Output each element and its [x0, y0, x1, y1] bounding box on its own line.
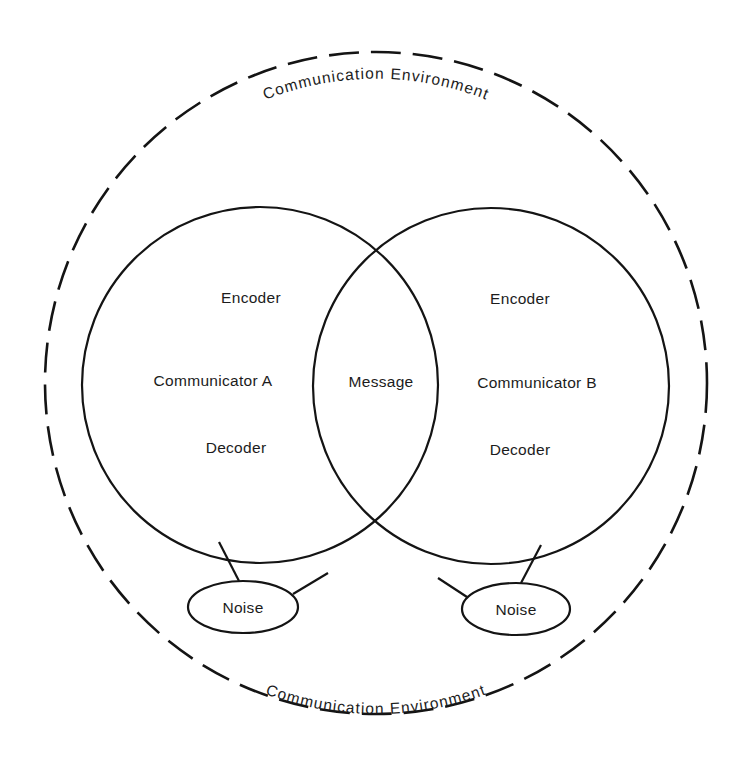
- noise-left-tail-line: [293, 573, 328, 594]
- communicator-a-encoder-label: Encoder: [221, 289, 281, 306]
- noise-right-label: Noise: [495, 601, 536, 618]
- communicator-b-decoder-label: Decoder: [490, 441, 551, 458]
- communicator-a-name-label: Communicator A: [154, 372, 273, 389]
- noise-right: Noise: [438, 545, 570, 635]
- communicator-a-decoder-label: Decoder: [206, 439, 267, 456]
- environment-label-top: Communication Environment: [260, 65, 491, 103]
- environment-label-top-text: Communication Environment: [260, 65, 491, 103]
- noise-right-tail-line: [438, 578, 467, 597]
- communicator-b-name-label: Communicator B: [477, 374, 597, 391]
- message-label: Message: [349, 373, 414, 390]
- environment-label-bottom: Communication Environment: [264, 681, 488, 717]
- communicator-b-encoder-label: Encoder: [490, 290, 550, 307]
- noise-left-label: Noise: [222, 599, 263, 616]
- noise-right-connector-line: [521, 545, 541, 583]
- environment-label-bottom-text: Communication Environment: [264, 681, 488, 717]
- communication-model-diagram: Communication Environment Communication …: [0, 0, 735, 763]
